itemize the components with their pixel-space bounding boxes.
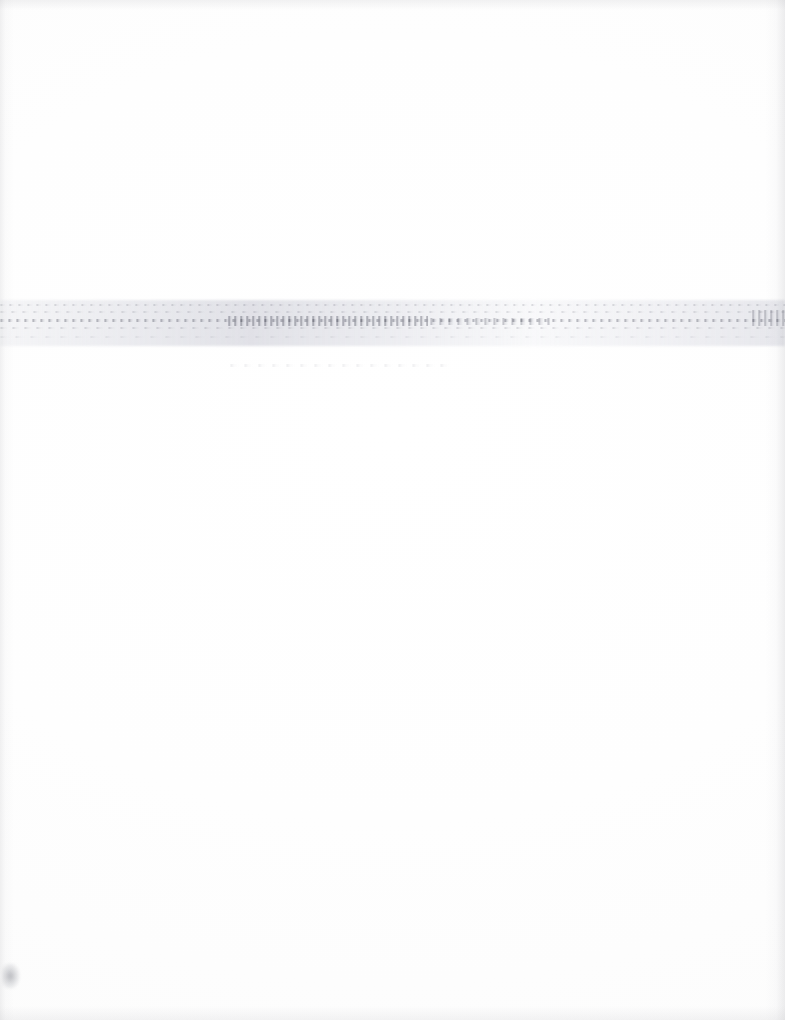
ghost-streak-5	[0, 336, 785, 338]
ghost-text-band	[0, 298, 785, 350]
corner-smudge	[2, 963, 20, 989]
page-edge-top	[0, 0, 785, 10]
ghost-streak-3	[0, 319, 785, 322]
page-edge-bottom	[0, 1006, 785, 1020]
page-edge-left	[0, 0, 14, 1020]
ghost-cluster-left	[228, 316, 428, 326]
ghost-text-band-faint	[230, 360, 450, 380]
ghost-streak-4	[0, 327, 785, 329]
paper-background	[0, 0, 785, 1020]
ghost-cluster-mid	[430, 318, 550, 325]
ghost-band-wash	[0, 300, 785, 346]
ghost-streak-faint	[230, 364, 450, 367]
page-edge-right	[765, 0, 785, 1020]
ghost-streak-2	[0, 311, 785, 313]
scanned-page: Near-blank scanned page with a faint hor…	[0, 0, 785, 1020]
ghost-streak-1	[0, 304, 785, 306]
ghost-cluster-right	[752, 310, 785, 326]
